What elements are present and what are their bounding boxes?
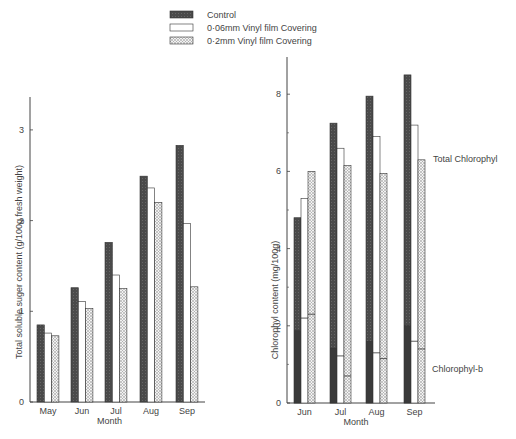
x-tick-label: Jun — [297, 407, 312, 417]
bar — [147, 188, 154, 402]
y-tick-label: 0 — [19, 397, 24, 407]
bar — [191, 287, 198, 402]
y-tick-label: 3 — [19, 125, 24, 135]
bar — [112, 275, 119, 402]
bar — [155, 202, 162, 402]
sugar-chart: 0123MayJunJulAugSepMonthTotal soluble su… — [14, 97, 205, 426]
x-axis-title: Month — [97, 416, 122, 426]
bar-total-chlorophyl — [411, 125, 418, 403]
x-tick-label: May — [39, 406, 57, 416]
bar — [86, 309, 93, 402]
legend-swatch-dots — [170, 37, 193, 44]
y-axis-title: Total soluble suger content (g/100g fres… — [14, 165, 24, 359]
bar — [52, 336, 59, 402]
x-tick-label: Jul — [110, 406, 122, 416]
bar-chlorophyl-b — [331, 348, 337, 403]
figure: Control0·06mm Vinyl film Covering0·2mm V… — [0, 0, 516, 439]
bar-total-chlorophyl — [308, 171, 315, 403]
bar — [78, 301, 85, 402]
y-tick-label: 6 — [276, 166, 281, 176]
bar-total-chlorophyl — [344, 166, 351, 403]
annotation-chlorophyl-b: Chlorophyl-b — [432, 364, 483, 374]
bar — [44, 333, 51, 402]
bar-chlorophyl-b — [367, 341, 373, 403]
bar-total-chlorophyl — [380, 173, 387, 403]
bar-total-chlorophyl — [301, 198, 308, 403]
x-tick-label: Sep — [406, 407, 422, 417]
y-axis-title: Chlorophyl content (mg/100g) — [270, 241, 280, 360]
bar-total-chlorophyl — [418, 160, 425, 403]
bar-chlorophyl-b — [295, 331, 301, 403]
bar — [176, 145, 183, 402]
y-tick-label: 0 — [276, 398, 281, 408]
y-tick-label: 8 — [276, 89, 281, 99]
bar — [105, 242, 112, 402]
bar — [71, 288, 78, 402]
x-tick-label: Jun — [75, 406, 90, 416]
legend: Control0·06mm Vinyl film Covering0·2mm V… — [170, 10, 317, 46]
bar — [183, 223, 190, 402]
legend-label: 0·06mm Vinyl film Covering — [207, 23, 317, 33]
x-tick-label: Aug — [368, 407, 384, 417]
bar-total-chlorophyl — [373, 137, 380, 403]
legend-swatch-dark — [170, 11, 193, 18]
bar — [37, 325, 44, 402]
bar-total-chlorophyl — [337, 148, 344, 403]
x-tick-label: Jul — [335, 407, 347, 417]
legend-swatch-white — [170, 24, 193, 31]
legend-label: 0·2mm Vinyl film Covering — [207, 36, 312, 46]
annotation-total-chlorophyl: Total Chlorophyl — [433, 154, 498, 164]
x-axis-title: Month — [343, 417, 368, 427]
x-tick-label: Aug — [143, 406, 159, 416]
bar — [120, 289, 127, 402]
chlorophyl-chart: 02468JunJulAugSepMonthChlorophyl content… — [270, 57, 498, 427]
bar — [140, 176, 147, 402]
legend-label: Control — [207, 10, 236, 20]
bar-chlorophyl-b — [405, 326, 411, 403]
x-tick-label: Sep — [179, 406, 195, 416]
